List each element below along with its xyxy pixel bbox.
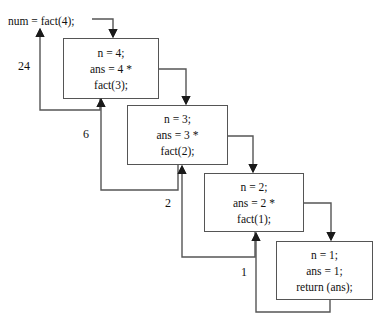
stack-frame-fact-2: n = 2; ans = 2 * fact(1); (204, 173, 304, 232)
return-value-label-6: 6 (83, 127, 89, 141)
frame-line: ans = 1; (306, 263, 343, 279)
frame-line: ans = 2 * (233, 195, 275, 211)
frame-line: fact(2); (161, 143, 195, 159)
frame-line: fact(3); (94, 77, 128, 93)
frame-line: n = 3; (164, 111, 191, 127)
stack-frame-fact-4: n = 4; ans = 4 * fact(3); (63, 38, 159, 99)
call-arrow-caller-to-fact4 (92, 19, 118, 38)
frame-line: ans = 4 * (90, 61, 132, 77)
call-arrow-fact3-to-fact2 (228, 136, 258, 173)
caller-statement: num = fact(4); (8, 14, 75, 28)
stack-frame-fact-1: n = 1; ans = 1; return (ans); (276, 241, 373, 300)
frame-line: return (ans); (296, 279, 353, 295)
return-value-label-2: 2 (165, 196, 171, 210)
frame-line: n = 1; (311, 247, 338, 263)
frame-line: ans = 3 * (157, 127, 199, 143)
call-arrow-fact2-to-fact1 (304, 203, 336, 241)
stack-frame-fact-3: n = 3; ans = 3 * fact(2); (127, 105, 228, 165)
return-value-label-1: 1 (241, 265, 247, 279)
frame-line: n = 2; (241, 179, 268, 195)
frame-line: n = 4; (98, 45, 125, 61)
call-arrow-fact4-to-fact3 (159, 69, 191, 105)
return-value-label-24: 24 (18, 59, 30, 73)
recursion-trace-diagram: num = fact(4); (0, 0, 386, 331)
frame-line: fact(1); (237, 211, 271, 227)
